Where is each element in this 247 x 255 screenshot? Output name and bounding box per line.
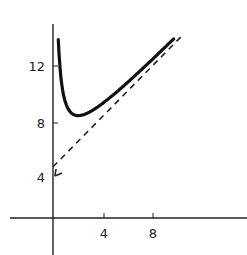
main-curve (58, 39, 173, 116)
y-tick-label-4: 4 (37, 170, 45, 185)
chart: 4 8 12 8 4 (0, 0, 247, 255)
asymptote-line (53, 35, 183, 167)
x-tick-label-8: 8 (149, 226, 157, 241)
y-tick-label-12: 12 (28, 59, 45, 74)
x-ticks: 4 8 (100, 213, 157, 241)
x-tick-label-4: 4 (100, 226, 108, 241)
y-tick-label-8: 8 (37, 116, 45, 131)
arrowhead-icon (55, 169, 62, 176)
